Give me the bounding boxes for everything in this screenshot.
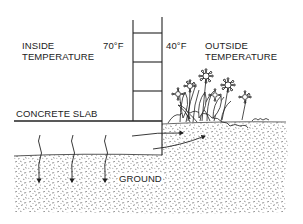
ground-label: GROUND — [118, 173, 163, 184]
outside-temperature-value: 40°F — [166, 40, 187, 51]
outside-label-line2: TEMPERATURE — [205, 51, 277, 62]
heat-loss-diagram: INSIDE TEMPERATURE 70°F 40°F OUTSIDE TEM… — [0, 0, 303, 224]
inside-temperature-value: 70°F — [103, 40, 124, 51]
concrete-slab-label: CONCRETE SLAB — [16, 108, 98, 119]
outside-temperature-label: OUTSIDE TEMPERATURE — [205, 40, 277, 62]
ground-region — [14, 122, 288, 214]
flower-head — [239, 91, 251, 103]
inside-temperature-label: INSIDE TEMPERATURE — [22, 40, 94, 62]
inside-label-line1: INSIDE — [22, 40, 94, 51]
inside-label-line2: TEMPERATURE — [22, 51, 94, 62]
flower-bed — [168, 69, 269, 128]
outside-label-line1: OUTSIDE — [205, 40, 277, 51]
